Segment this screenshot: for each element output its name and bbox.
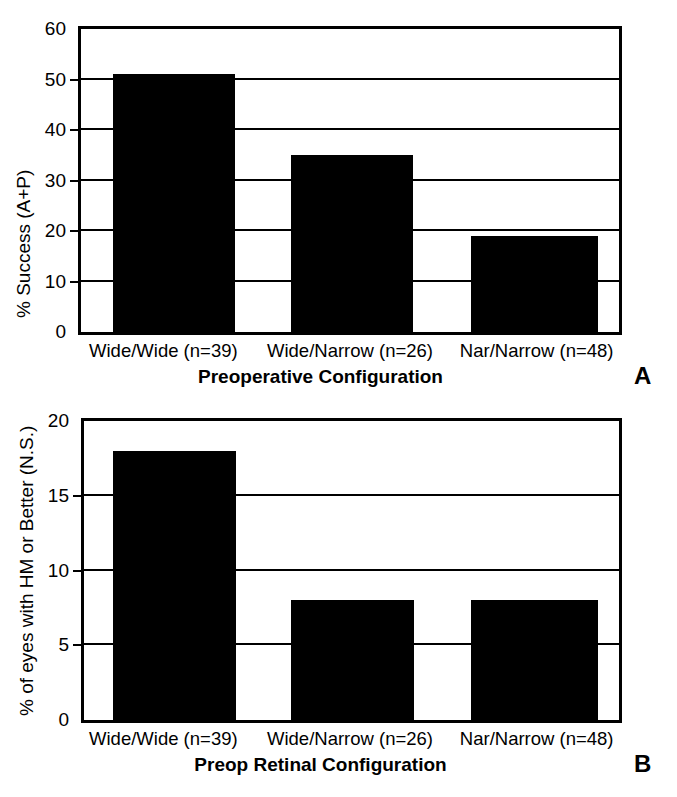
chart-panel-a: % Success (A+P) 0102030405060 Wide/Wide … bbox=[0, 0, 677, 400]
y-tick-label: 15 bbox=[19, 486, 69, 505]
y-tick-label: 60 bbox=[16, 19, 66, 38]
bar-2 bbox=[291, 600, 414, 720]
bar-1 bbox=[113, 74, 235, 332]
panel-letter-b: B bbox=[634, 752, 651, 776]
plot-inner-a bbox=[81, 29, 619, 332]
panel-letter-a: A bbox=[634, 364, 651, 388]
x-category-label-1: Wide/Wide (n=39) bbox=[70, 728, 257, 750]
y-tick-label: 50 bbox=[16, 70, 66, 89]
plot-area-a bbox=[78, 26, 622, 335]
y-tick-label: 0 bbox=[19, 710, 69, 729]
x-axis-title-b: Preop Retinal Configuration bbox=[0, 754, 659, 776]
x-axis-categories-b: Wide/Wide (n=39)Wide/Narrow (n=26)Nar/Na… bbox=[70, 728, 630, 750]
y-tick-label: 10 bbox=[19, 561, 69, 580]
y-tick-label: 10 bbox=[16, 272, 66, 291]
figure: % Success (A+P) 0102030405060 Wide/Wide … bbox=[0, 0, 677, 797]
bar-1 bbox=[113, 451, 236, 720]
plot-area-b bbox=[81, 418, 622, 723]
y-tick-label: 20 bbox=[16, 221, 66, 240]
y-tick-label: 20 bbox=[19, 411, 69, 430]
x-category-label-2: Wide/Narrow (n=26) bbox=[257, 728, 444, 750]
y-tick-label: 40 bbox=[16, 120, 66, 139]
chart-panel-b: % of eyes with HM or Better (N.S.) 05101… bbox=[0, 400, 677, 797]
bar-3 bbox=[471, 236, 598, 332]
y-tick-label: 0 bbox=[16, 322, 66, 341]
y-tick-label: 5 bbox=[19, 635, 69, 654]
x-axis-title-a: Preoperative Configuration bbox=[0, 366, 659, 388]
x-category-label-1: Wide/Wide (n=39) bbox=[70, 340, 257, 362]
plot-inner-b bbox=[84, 421, 619, 720]
y-axis-title-a: % Success (A+P) bbox=[14, 170, 33, 318]
x-category-label-2: Wide/Narrow (n=26) bbox=[257, 340, 444, 362]
x-axis-categories-a: Wide/Wide (n=39)Wide/Narrow (n=26)Nar/Na… bbox=[70, 340, 630, 362]
bar-3 bbox=[471, 600, 598, 720]
bar-2 bbox=[291, 155, 413, 332]
x-category-label-3: Nar/Narrow (n=48) bbox=[443, 340, 630, 362]
y-tick-label: 30 bbox=[16, 171, 66, 190]
x-category-label-3: Nar/Narrow (n=48) bbox=[443, 728, 630, 750]
